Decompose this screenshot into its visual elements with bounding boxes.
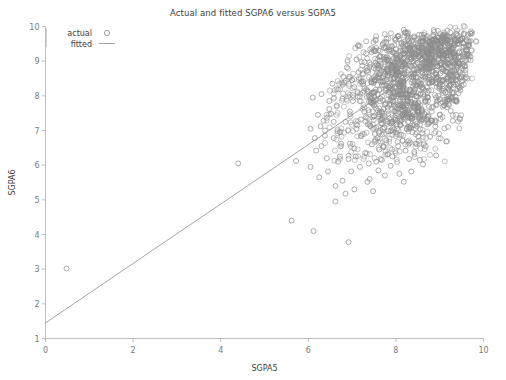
legend-label: actual	[67, 29, 92, 38]
data-point	[340, 91, 345, 96]
data-point	[407, 156, 412, 161]
data-point	[322, 128, 327, 133]
data-point	[376, 168, 381, 173]
data-point	[333, 199, 338, 204]
data-point	[308, 164, 313, 169]
data-point	[448, 24, 453, 29]
data-point	[289, 218, 294, 223]
y-tick-label: 7	[34, 127, 39, 136]
y-tick-label: 1	[34, 335, 39, 344]
chart-legend: actualfitted	[47, 28, 116, 49]
actual-points-series	[64, 23, 479, 271]
data-point	[355, 147, 360, 152]
y-tick-label: 6	[34, 161, 39, 170]
data-point	[397, 171, 402, 176]
data-point	[349, 169, 354, 174]
y-tick-label: 4	[34, 231, 39, 240]
data-point	[331, 119, 336, 124]
data-point	[344, 65, 349, 70]
y-tick-label: 10	[29, 23, 39, 32]
data-point	[314, 148, 319, 153]
y-tick-label: 5	[34, 196, 39, 205]
data-point	[401, 179, 406, 184]
data-point	[421, 162, 426, 167]
data-point	[371, 189, 376, 194]
data-point	[428, 152, 433, 157]
data-point	[429, 109, 434, 114]
data-point	[327, 107, 332, 112]
data-point	[351, 71, 356, 76]
legend-marker-circle-icon	[104, 30, 109, 35]
data-point	[382, 32, 387, 37]
x-axis-title: SGPA5	[251, 364, 277, 373]
data-point	[346, 156, 351, 161]
data-point	[346, 240, 351, 245]
y-axis-title: SGPA6	[8, 169, 17, 195]
data-point	[470, 76, 475, 81]
data-point	[315, 112, 320, 117]
data-point	[343, 119, 348, 124]
data-point	[450, 113, 455, 118]
legend-label: fitted	[71, 40, 92, 49]
x-tick-label: 2	[131, 346, 136, 355]
y-tick-label: 3	[34, 265, 39, 274]
x-tick-label: 0	[43, 346, 48, 355]
data-point	[387, 136, 392, 141]
data-point	[412, 155, 417, 160]
data-point	[425, 130, 430, 135]
data-point	[327, 99, 332, 104]
data-point	[346, 66, 351, 71]
data-point	[318, 124, 323, 129]
data-point	[327, 88, 332, 93]
data-point	[339, 134, 344, 139]
y-tick-label: 9	[34, 57, 39, 66]
data-point	[341, 104, 346, 109]
data-point	[376, 145, 381, 150]
data-point	[384, 138, 389, 143]
data-point	[311, 229, 316, 234]
data-point	[310, 95, 315, 100]
data-point	[354, 126, 359, 131]
data-point	[388, 31, 393, 36]
x-tick-label: 4	[218, 346, 223, 355]
data-point	[434, 153, 439, 158]
data-point	[432, 131, 437, 136]
data-point	[382, 173, 387, 178]
data-point	[343, 191, 348, 196]
data-point	[64, 266, 69, 271]
data-point	[319, 92, 324, 97]
data-point	[364, 39, 369, 44]
data-point	[352, 187, 357, 192]
data-point	[327, 125, 332, 130]
data-point	[322, 141, 327, 146]
data-point	[349, 150, 354, 155]
data-point	[326, 169, 331, 174]
data-point	[358, 117, 363, 122]
data-point	[366, 161, 371, 166]
x-tick-label: 6	[306, 346, 311, 355]
y-tick-label: 8	[34, 92, 39, 101]
data-point	[330, 81, 335, 86]
data-point	[322, 133, 327, 138]
data-point	[294, 159, 299, 164]
scatter-plot: 123456789100246810SGPA5SGPA6 actualfitte…	[0, 0, 506, 380]
x-tick-label: 10	[478, 346, 488, 355]
data-point	[433, 146, 438, 151]
data-point	[236, 161, 241, 166]
data-point	[378, 156, 383, 161]
data-point	[388, 163, 393, 168]
data-point	[450, 118, 455, 123]
data-point	[409, 169, 414, 174]
data-point	[442, 159, 447, 164]
x-tick-label: 8	[393, 346, 398, 355]
data-point	[357, 164, 362, 169]
data-point	[332, 148, 337, 153]
y-tick-label: 2	[34, 300, 39, 309]
data-point	[457, 126, 462, 131]
data-point	[403, 148, 408, 153]
data-point	[308, 126, 313, 131]
data-point	[333, 183, 338, 188]
data-point	[317, 175, 322, 180]
chart-figure: Actual and fitted SGPA6 versus SGPA5 123…	[0, 0, 506, 380]
data-point	[340, 178, 345, 183]
